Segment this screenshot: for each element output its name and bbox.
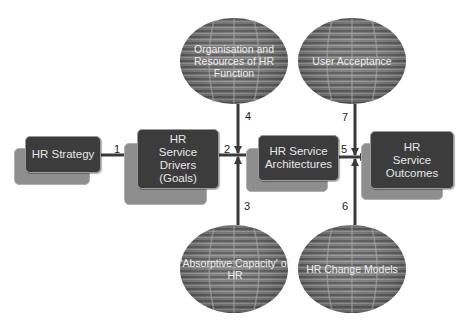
arrow-number-3: 3: [244, 201, 250, 212]
ellipse-organisation-resources: [180, 18, 288, 104]
arrow-number-5: 5: [341, 144, 347, 155]
hr-strategy-label: HR Strategy: [32, 148, 95, 161]
hr-service-drivers-label: HR Service Drivers (Goals): [152, 133, 204, 185]
arrow-number-1: 1: [114, 144, 120, 155]
arrow-number-4: 4: [245, 111, 251, 122]
ellipse-user-acceptance: [298, 18, 406, 104]
hr-service-outcomes-box: HR Service Outcomes: [370, 131, 454, 189]
diagram-canvas: HR Strategy HR Service Drivers (Goals) H…: [0, 0, 471, 326]
hr-service-outcomes-label: HR Service Outcomes: [385, 141, 439, 180]
hr-strategy-box: HR Strategy: [25, 136, 101, 173]
arrow-number-6: 6: [342, 201, 348, 212]
arrow-number-7: 7: [342, 112, 348, 123]
hr-service-architectures-label: HR Service Architectures: [265, 145, 332, 171]
ellipse-hr-change-models: [298, 225, 406, 313]
hr-service-drivers-box: HR Service Drivers (Goals): [137, 129, 219, 189]
hr-service-architectures-box: HR Service Architectures: [258, 135, 339, 181]
arrow-number-2: 2: [224, 144, 230, 155]
ellipse-absorptive-capacity: [180, 225, 288, 313]
